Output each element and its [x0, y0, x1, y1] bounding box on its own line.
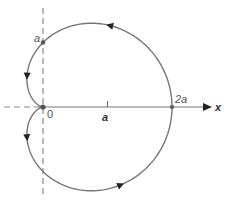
- arrow-upper-right-icon: [106, 23, 114, 30]
- label-a-y: a: [34, 32, 40, 44]
- label-origin: 0: [47, 108, 53, 120]
- y-intercept-point: [41, 40, 45, 44]
- origin-point: [40, 104, 45, 109]
- x-axis-arrow-icon: [203, 103, 212, 111]
- arrow-upper-left-icon: [24, 72, 31, 79]
- two-a-point: [170, 105, 174, 109]
- label-2a: 2a: [174, 93, 187, 105]
- label-a-x: a: [102, 111, 108, 123]
- cardioid-diagram: a 0 a 2a x: [0, 0, 230, 210]
- label-x-axis: x: [214, 101, 222, 113]
- arrow-lower-left-icon: [23, 134, 30, 141]
